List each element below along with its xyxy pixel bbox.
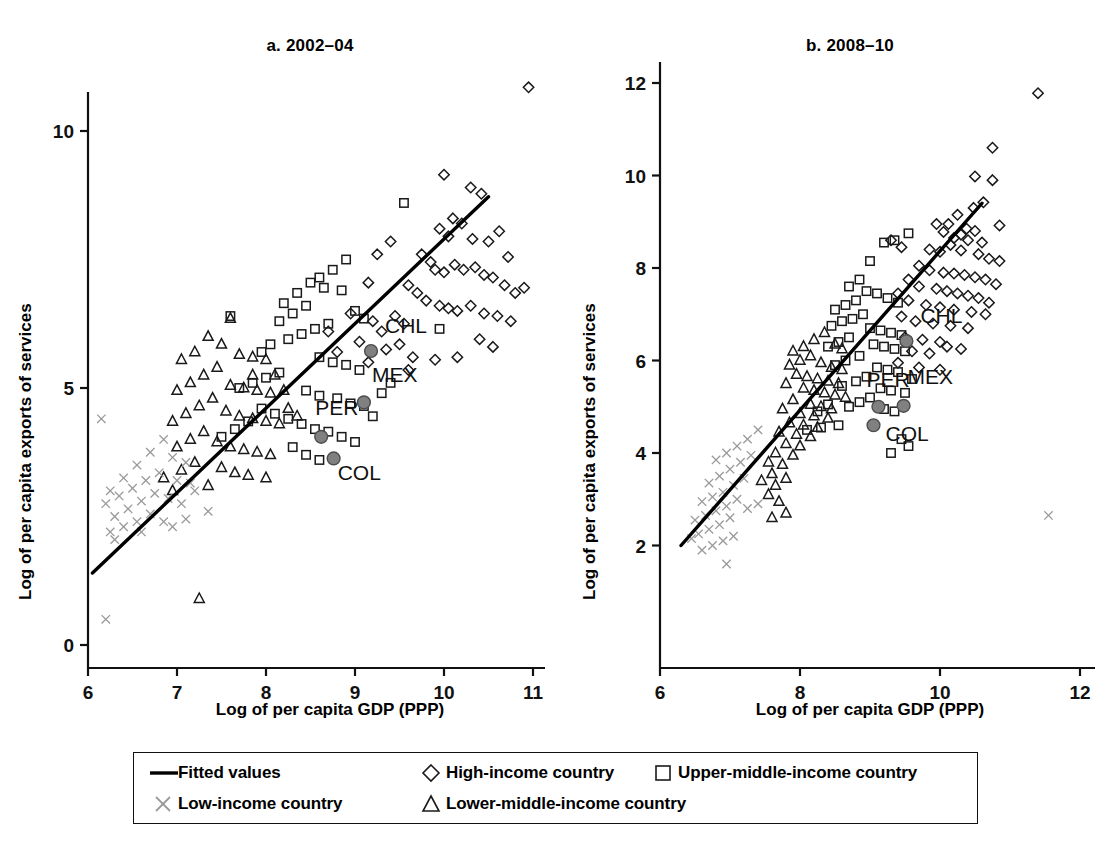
highlight-point-PER [872, 400, 885, 413]
triangle-legend-swatch [416, 792, 446, 816]
square-marker-icon [650, 761, 676, 785]
highlight-point-PER [315, 430, 328, 443]
svg-text:11: 11 [523, 682, 544, 700]
line-marker-icon [148, 761, 178, 785]
highlight-point-MEX [358, 396, 371, 409]
highlight-point-CHL [900, 335, 913, 348]
svg-text:10: 10 [625, 166, 646, 187]
svg-text:8: 8 [261, 682, 272, 700]
legend-high-income: High-income country [416, 758, 614, 788]
legend-fitted-values: Fitted values [148, 758, 281, 788]
legend-low-income-label: Low-income country [178, 794, 342, 814]
series-diamond [323, 82, 534, 375]
legend-low-income: Low-income country [148, 789, 342, 819]
svg-text:12: 12 [1069, 682, 1090, 700]
svg-text:10: 10 [433, 682, 454, 700]
country-label-PER: PER [315, 396, 358, 419]
legend-lower-middle-income-label: Lower-middle-income country [446, 794, 686, 814]
panel-a-plot: 678910110510CHLMEXPERCOL [0, 0, 560, 700]
figure-scatter-plots: a. 2002–04 b. 2008–10 Log of per capita … [0, 0, 1106, 848]
country-label-PER: PER [866, 368, 909, 391]
highlight-point-MEX [897, 399, 910, 412]
legend-high-income-label: High-income country [446, 763, 614, 783]
line-legend-swatch [148, 761, 178, 785]
svg-text:6: 6 [83, 682, 94, 700]
series-cross [97, 415, 212, 624]
legend-lower-middle-income: Lower-middle-income country [416, 789, 686, 819]
series-diamond [886, 88, 1043, 375]
country-label-MEX: MEX [372, 363, 418, 386]
country-label-MEX: MEX [908, 365, 954, 388]
svg-text:6: 6 [635, 351, 646, 372]
svg-text:10: 10 [53, 121, 74, 142]
series-triangle [159, 313, 303, 603]
svg-text:12: 12 [625, 73, 646, 94]
svg-text:5: 5 [63, 378, 74, 399]
svg-text:4: 4 [635, 443, 646, 464]
country-label-CHL: CHL [385, 314, 427, 337]
panel-b-plot: 68101224681012CHLMEXPERCOL [560, 0, 1106, 700]
highlight-point-COL [867, 419, 880, 432]
svg-text:0: 0 [63, 635, 74, 656]
highlight-point-CHL [365, 345, 378, 358]
svg-text:8: 8 [635, 258, 646, 279]
legend-upper-middle-income-label: Upper-middle-income country [678, 763, 917, 783]
legend: Fitted valuesHigh-income countryUpper-mi… [133, 752, 978, 824]
country-label-COL: COL [338, 461, 381, 484]
country-label-CHL: CHL [920, 304, 962, 327]
panel-b-x-axis-label: Log of per capita GDP (PPP) [660, 700, 1080, 720]
svg-text:9: 9 [350, 682, 361, 700]
triangle-marker-icon [418, 792, 444, 816]
svg-text:7: 7 [172, 682, 183, 700]
legend-upper-middle-income: Upper-middle-income country [648, 758, 917, 788]
svg-text:2: 2 [635, 536, 646, 557]
panel-a-x-axis-label: Log of per capita GDP (PPP) [120, 700, 540, 720]
diamond-marker-icon [418, 761, 444, 785]
cross-legend-swatch [148, 792, 178, 816]
legend-fitted-values-label: Fitted values [178, 763, 281, 783]
country-label-COL: COL [886, 422, 929, 445]
square-legend-swatch [648, 761, 678, 785]
svg-text:10: 10 [929, 682, 950, 700]
series-cross [687, 426, 1052, 569]
svg-text:8: 8 [795, 682, 806, 700]
cross-marker-icon [150, 792, 176, 816]
svg-text:6: 6 [655, 682, 666, 700]
diamond-legend-swatch [416, 761, 446, 785]
series-triangle [757, 327, 851, 522]
